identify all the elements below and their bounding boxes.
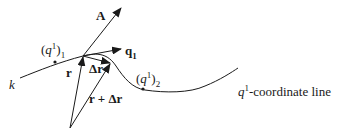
label-q1: q1	[125, 44, 137, 61]
label-coordinate-line: q1-coordinate line	[238, 84, 331, 98]
diagram-canvas	[0, 0, 348, 139]
point-1-dot	[53, 60, 56, 63]
label-point-2: (q1)2	[136, 71, 160, 89]
label-k: k	[9, 78, 15, 91]
label-A: A	[96, 9, 105, 22]
label-r: r	[66, 66, 72, 79]
label-delta-r: Δr	[89, 62, 103, 75]
label-r-plus-delta-r: r + Δr	[89, 92, 122, 105]
label-point-1: (q1)1	[41, 42, 65, 60]
